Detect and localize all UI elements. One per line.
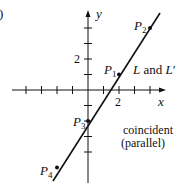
label-p1: P1 [103,62,116,79]
x-axis-arrow-icon [159,88,166,93]
y-axis-label: y [94,6,102,21]
y-tick-label-2: 2 [74,52,80,66]
annotation-coincident: coincident [123,123,174,137]
label-p2: P2 [133,18,146,35]
point-p3 [86,119,90,123]
y-axis: 2 y [74,6,102,183]
coordinate-diagram: ) 2 x 2 y [0,0,182,187]
point-p1 [117,73,121,77]
part-label: ) [0,6,3,21]
label-p4: P4 [39,163,53,180]
point-p4 [55,166,59,170]
point-p2 [148,26,152,30]
y-axis-arrow-icon [86,10,91,17]
x-axis-label: x [157,94,164,109]
line-label: L and L′ [132,62,176,77]
line-L-and-L-prime [53,13,160,181]
label-p3: P3 [72,114,86,131]
annotation-parallel: (parallel) [121,136,165,150]
x-tick-label-2: 2 [115,95,121,109]
